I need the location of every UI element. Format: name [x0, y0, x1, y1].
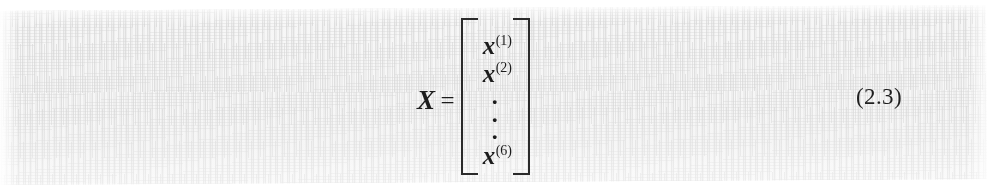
matrix-entry-1: x(1) — [483, 33, 512, 58]
matrix-entry-last: x(6) — [483, 143, 512, 168]
matrix: x(1) x(2) . . . x(6) — [461, 18, 530, 183]
matrix-symbol: X — [417, 87, 439, 114]
matrix-entry-1-superscript: (1) — [496, 33, 512, 48]
right-square-bracket-icon — [513, 18, 530, 175]
vertical-ellipsis-dot: . — [492, 123, 498, 140]
display-equation: X = x(1) x(2) . . . x(6) — [417, 18, 530, 183]
matrix-entry-2: x(2) — [483, 61, 512, 86]
matrix-entry-1-base: x — [483, 32, 496, 59]
equation-area: X = x(1) x(2) . . . x(6) (2.3) — [0, 0, 993, 193]
equation-number: (2.3) — [856, 84, 902, 110]
matrix-entry-last-superscript: (6) — [496, 143, 512, 158]
matrix-column: x(1) x(2) . . . x(6) — [477, 24, 516, 177]
vertical-ellipsis-icon: . . . — [483, 88, 498, 140]
scanned-page-fragment: X = x(1) x(2) . . . x(6) (2.3) — [0, 0, 993, 193]
equals-sign: = — [439, 88, 461, 113]
matrix-entry-last-base: x — [483, 142, 496, 169]
left-square-bracket-icon — [461, 18, 478, 175]
matrix-entry-2-superscript: (2) — [496, 60, 512, 75]
